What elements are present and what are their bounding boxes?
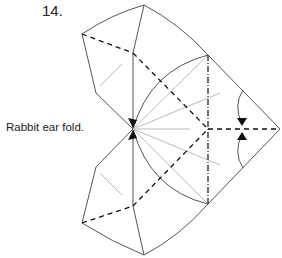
model-outline — [82, 5, 280, 255]
origami-diagram — [0, 0, 282, 258]
crease-lines — [100, 55, 220, 204]
arrow-up-icon — [237, 132, 247, 140]
arrow-down-icon — [237, 118, 247, 126]
